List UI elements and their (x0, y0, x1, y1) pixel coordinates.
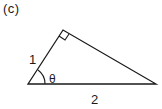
triangle-figure (0, 0, 162, 109)
triangle-outline (28, 30, 156, 84)
side-adjacent-label: 1 (29, 53, 36, 66)
panel-label: (c) (3, 2, 20, 15)
angle-theta-label: θ (49, 73, 56, 85)
side-base-label: 2 (91, 93, 98, 106)
angle-arc (38, 70, 45, 84)
